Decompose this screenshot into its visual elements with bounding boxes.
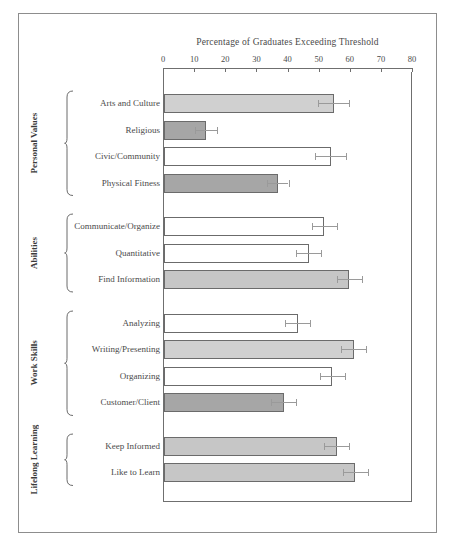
group-label-work-skills: Work Skills — [26, 310, 42, 417]
error-bar-writing-presenting — [341, 349, 366, 350]
group-bracket-column: Personal ValuesAbilitiesWork SkillsLifel… — [26, 72, 160, 502]
error-cap-high — [345, 373, 346, 380]
group-bracket-lifelong-learning — [64, 433, 74, 487]
plot-area — [163, 72, 412, 502]
x-tick-label-10: 10 — [190, 54, 199, 64]
error-bar-civic-community — [315, 156, 346, 157]
error-cap-low — [337, 276, 338, 283]
group-bracket-work-skills — [64, 310, 74, 417]
error-cap-high — [368, 469, 369, 476]
error-bar-customer-client — [271, 402, 296, 403]
bar-find-information — [164, 270, 349, 289]
error-bar-physical-fitness — [267, 183, 289, 184]
group-label-lifelong-learning: Lifelong Learning — [26, 433, 42, 487]
bar-arts-and-culture — [164, 94, 334, 113]
bar-customer-client — [164, 393, 284, 412]
error-cap-high — [337, 223, 338, 230]
x-tick-label-80: 80 — [408, 54, 417, 64]
group-label-abilities: Abilities — [26, 213, 42, 293]
error-cap-low — [315, 153, 316, 160]
group-label-personal-values: Personal Values — [26, 90, 42, 197]
bar-physical-fitness — [164, 174, 278, 193]
x-axis: 01020304050607080 — [163, 68, 412, 69]
bar-civic-community — [164, 147, 331, 166]
error-cap-high — [366, 346, 367, 353]
error-cap-low — [324, 443, 325, 450]
bar-communicate-organize — [164, 217, 324, 236]
error-cap-high — [217, 127, 218, 134]
error-cap-high — [321, 250, 322, 257]
error-cap-low — [285, 320, 286, 327]
error-cap-low — [343, 469, 344, 476]
error-bar-organizing — [320, 376, 345, 377]
x-tick-label-30: 30 — [252, 54, 261, 64]
error-bar-communicate-organize — [312, 226, 337, 227]
error-cap-high — [349, 100, 350, 107]
chart-figure: Percentage of Graduates Exceeding Thresh… — [0, 0, 457, 552]
error-cap-low — [271, 399, 272, 406]
x-tick-label-0: 0 — [161, 54, 165, 64]
error-bar-arts-and-culture — [318, 103, 349, 104]
group-bracket-abilities — [64, 213, 74, 293]
error-cap-low — [320, 373, 321, 380]
error-cap-high — [362, 276, 363, 283]
error-bar-quantitative — [296, 253, 321, 254]
error-cap-high — [349, 443, 350, 450]
error-bar-like-to-learn — [343, 472, 368, 473]
error-bar-analyzing — [285, 323, 310, 324]
group-bracket-personal-values — [64, 90, 74, 197]
bar-writing-presenting — [164, 340, 354, 359]
x-tick-label-50: 50 — [314, 54, 323, 64]
bar-analyzing — [164, 314, 298, 333]
chart-title: Percentage of Graduates Exceeding Thresh… — [163, 37, 412, 47]
x-tick-label-60: 60 — [346, 54, 355, 64]
error-cap-low — [341, 346, 342, 353]
x-tick-label-20: 20 — [221, 54, 230, 64]
error-cap-low — [296, 250, 297, 257]
error-cap-high — [289, 180, 290, 187]
error-cap-low — [195, 127, 196, 134]
error-cap-low — [312, 223, 313, 230]
x-tick-label-70: 70 — [377, 54, 386, 64]
bar-like-to-learn — [164, 463, 355, 482]
error-bar-religious — [195, 130, 217, 131]
error-cap-low — [267, 180, 268, 187]
error-bar-find-information — [337, 279, 362, 280]
error-cap-high — [346, 153, 347, 160]
bar-quantitative — [164, 244, 309, 263]
error-bar-keep-informed — [324, 446, 349, 447]
bar-organizing — [164, 367, 332, 386]
error-cap-high — [296, 399, 297, 406]
error-cap-high — [310, 320, 311, 327]
error-cap-low — [318, 100, 319, 107]
x-tick-label-40: 40 — [283, 54, 292, 64]
bar-keep-informed — [164, 437, 337, 456]
x-tick-80 — [412, 68, 413, 72]
